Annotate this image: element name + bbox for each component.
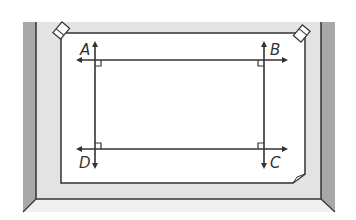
board-left-side — [23, 22, 36, 212]
diagram-canvas: A B C D — [0, 0, 356, 220]
board-right-side — [321, 22, 335, 212]
label-d: D — [79, 154, 91, 172]
label-a: A — [79, 41, 90, 59]
paper — [61, 33, 305, 183]
label-c: C — [270, 154, 281, 172]
board-bottom-ledge — [23, 199, 335, 212]
label-b: B — [270, 41, 280, 59]
paper-sheet — [61, 33, 305, 183]
